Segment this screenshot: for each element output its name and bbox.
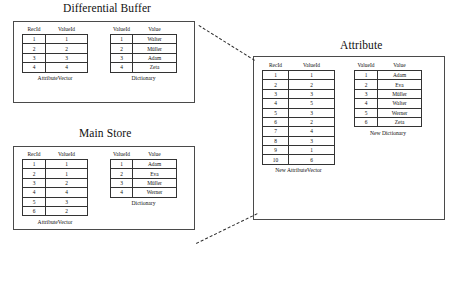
table-caption: AttributeVector: [22, 73, 88, 82]
cell-valueid: 2: [111, 44, 133, 53]
cell-recid: 3: [23, 178, 46, 187]
table-header-row: ValueId Value: [355, 61, 422, 71]
table-row: 5 3: [263, 108, 335, 117]
cell-value: Zeta: [378, 117, 422, 126]
group-title-attribute: Attribute: [340, 39, 382, 51]
table-header-row: RecId ValueId: [263, 61, 335, 71]
cell-recid: 4: [23, 63, 46, 72]
table-caption: Dictionary: [110, 198, 177, 207]
table-row: 4 Werner: [111, 188, 177, 197]
cell-recid: 3: [263, 89, 289, 98]
cell-valueid: 5: [289, 99, 335, 108]
table-db-attribute-vector: RecId ValueId 1 1 2 2 3 3 4: [22, 25, 88, 81]
cell-recid: 6: [263, 117, 289, 126]
column-header: ValueId: [355, 61, 378, 71]
cell-recid: 2: [263, 80, 289, 89]
group-title-differential-buffer: Differential Buffer: [63, 2, 151, 14]
cell-valueid: 3: [289, 108, 335, 117]
cell-valueid: 6: [355, 117, 378, 126]
table-row: 5 3: [23, 197, 88, 206]
cell-value: Müller: [133, 178, 177, 187]
table-row: 5 Werner: [355, 108, 422, 117]
cell-valueid: 4: [46, 188, 88, 197]
cell-value: Walter: [378, 99, 422, 108]
cell-valueid: 2: [111, 169, 133, 178]
table-header-row: RecId ValueId: [23, 150, 88, 160]
cell-recid: 5: [263, 108, 289, 117]
table-new-attribute-vector: RecId ValueId 1 1 2 2 3 3 4: [262, 61, 335, 173]
cell-valueid: 2: [289, 117, 335, 126]
table-caption: New AttributeVector: [262, 165, 335, 174]
cell-value: Müller: [133, 44, 177, 53]
cell-recid: 4: [23, 188, 46, 197]
table-row: 2 Müller: [111, 44, 177, 53]
table-row: 2 2: [263, 80, 335, 89]
table-row: 1 1: [23, 35, 88, 44]
cell-valueid: 4: [111, 188, 133, 197]
table-row: 3 2: [23, 178, 88, 187]
merge-arrow-bottom: [196, 213, 258, 244]
table-row: 4 5: [263, 99, 335, 108]
cell-recid: 1: [23, 160, 46, 169]
table-row: 1 Adam: [355, 71, 422, 80]
table-row: 10 6: [263, 155, 335, 164]
cell-valueid: 4: [355, 99, 378, 108]
cell-recid: 7: [263, 127, 289, 136]
table-row: 2 Eva: [355, 80, 422, 89]
cell-recid: 6: [23, 206, 46, 215]
cell-recid: 10: [263, 155, 289, 164]
cell-valueid: 3: [289, 136, 335, 145]
column-header: RecId: [23, 150, 46, 160]
cell-valueid: 2: [46, 44, 88, 53]
merge-arrow-top: [198, 25, 255, 61]
table-header-row: ValueId Value: [111, 150, 177, 160]
cell-valueid: 2: [46, 178, 88, 187]
table-caption: AttributeVector: [22, 216, 88, 225]
table-row: 3 3: [263, 89, 335, 98]
cell-valueid: 6: [289, 155, 335, 164]
table-row: 3 Müller: [111, 178, 177, 187]
table-row: 4 Zeta: [111, 63, 177, 72]
column-header: ValueId: [46, 25, 88, 35]
cell-recid: 1: [23, 35, 46, 44]
cell-valueid: 4: [111, 63, 133, 72]
table-row: 4 4: [23, 63, 88, 72]
table-row: 1 1: [23, 160, 88, 169]
cell-recid: 5: [23, 197, 46, 206]
cell-value: Walter: [133, 35, 177, 44]
cell-valueid: 1: [46, 35, 88, 44]
column-header: Value: [378, 61, 422, 71]
cell-valueid: 3: [111, 178, 133, 187]
table-row: 6 2: [263, 117, 335, 126]
cell-value: Zeta: [133, 63, 177, 72]
table-header-row: ValueId Value: [111, 25, 177, 35]
cell-valueid: 3: [289, 89, 335, 98]
cell-valueid: 4: [289, 127, 335, 136]
table-db-dictionary: ValueId Value 1 Walter 2 Müller 3 Adam: [110, 25, 177, 81]
cell-recid: 2: [23, 44, 46, 53]
group-title-main-store: Main Store: [79, 127, 131, 139]
cell-valueid: 3: [355, 89, 378, 98]
cell-valueid: 1: [289, 71, 335, 80]
cell-value: Adam: [378, 71, 422, 80]
cell-value: Werner: [133, 188, 177, 197]
table-ms-attribute-vector: RecId ValueId 1 1 2 1 3 2 4: [22, 150, 88, 225]
cell-valueid: 2: [355, 80, 378, 89]
table-row: 4 4: [23, 188, 88, 197]
table-row: 2 1: [23, 169, 88, 178]
cell-valueid: 1: [355, 71, 378, 80]
cell-valueid: 3: [46, 53, 88, 62]
cell-value: Adam: [133, 160, 177, 169]
cell-value: Adam: [133, 53, 177, 62]
table-row: 9 1: [263, 146, 335, 155]
table-row: 3 3: [23, 53, 88, 62]
cell-valueid: 2: [46, 206, 88, 215]
table-row: 2 Eva: [111, 169, 177, 178]
table-caption: New Dictionary: [354, 127, 422, 136]
diagram-canvas: Differential Buffer RecId ValueId 1 1 2 …: [0, 0, 454, 283]
cell-valueid: 3: [111, 53, 133, 62]
cell-value: Müller: [378, 89, 422, 98]
cell-value: Werner: [378, 108, 422, 117]
table-row: 3 Müller: [355, 89, 422, 98]
column-header: RecId: [23, 25, 46, 35]
